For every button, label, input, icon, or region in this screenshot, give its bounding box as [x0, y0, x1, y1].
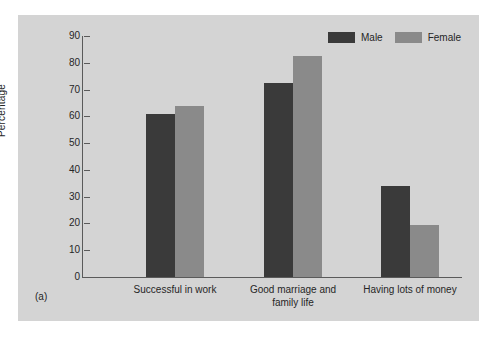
y-axis-tick: 30 — [48, 197, 90, 198]
y-axis-tick-mark — [84, 223, 90, 224]
bar-male-1 — [146, 114, 175, 277]
y-axis-tick-label: 20 — [56, 216, 80, 229]
y-axis-tick-label: 50 — [56, 136, 80, 149]
y-axis-tick-mark — [84, 63, 90, 64]
bar-male-2 — [264, 83, 293, 277]
y-axis-tick-label: 40 — [56, 163, 80, 176]
figure-caption: (a) — [35, 291, 47, 302]
bar-female-2 — [293, 56, 322, 277]
y-axis-tick-mark — [84, 197, 90, 198]
y-axis-tick: 0 — [48, 277, 90, 278]
y-axis-tick-mark — [84, 90, 90, 91]
y-axis-tick: 20 — [48, 223, 90, 224]
y-axis-line — [82, 36, 83, 277]
plot-area: 9080706050403020100 Successful in workGo… — [82, 36, 462, 277]
y-axis-tick-mark — [84, 277, 90, 278]
y-axis-tick: 50 — [48, 143, 90, 144]
y-axis-tick: 40 — [48, 170, 90, 171]
x-axis-label-1: Successful in work — [115, 283, 235, 296]
y-axis-tick-mark — [84, 36, 90, 37]
y-axis-tick-mark — [84, 250, 90, 251]
y-axis-tick-label: 60 — [56, 109, 80, 122]
y-axis-tick: 60 — [48, 116, 90, 117]
y-axis-tick-label: 30 — [56, 190, 80, 203]
bar-female-1 — [175, 106, 204, 277]
y-axis-tick-mark — [84, 143, 90, 144]
y-axis-tick-label: 10 — [56, 243, 80, 256]
bar-female-3 — [410, 225, 439, 277]
x-axis-label-2: Good marriage and family life — [233, 283, 353, 309]
y-axis-tick-mark — [84, 170, 90, 171]
y-axis-tick-label: 0 — [56, 270, 80, 283]
y-axis-tick: 90 — [48, 36, 90, 37]
y-axis-tick-label: 70 — [56, 83, 80, 96]
bar-male-3 — [381, 186, 410, 277]
y-axis-tick-label: 90 — [56, 29, 80, 42]
y-axis-title: Percentage — [0, 66, 7, 156]
y-axis-tick-mark — [84, 116, 90, 117]
y-axis-tick: 80 — [48, 63, 90, 64]
figure-panel: Percentage Male Female 90807060504030201… — [18, 15, 479, 321]
y-axis-tick: 10 — [48, 250, 90, 251]
y-axis-tick: 70 — [48, 90, 90, 91]
y-axis-tick-label: 80 — [56, 56, 80, 69]
x-axis-line — [82, 277, 462, 278]
x-axis-label-3: Having lots of money — [350, 283, 470, 296]
